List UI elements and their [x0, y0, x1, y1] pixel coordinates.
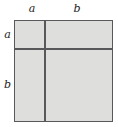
dimension-label-left-b: b: [1, 79, 14, 90]
vertical-divider-line: [44, 20, 46, 122]
dimension-label-top-a: a: [25, 3, 39, 14]
dimension-label-top-b: b: [70, 3, 84, 14]
horizontal-divider-line: [14, 48, 113, 50]
figure-container: a b a b: [0, 0, 118, 127]
outer-square: [14, 20, 113, 122]
dimension-label-left-a: a: [1, 29, 14, 40]
